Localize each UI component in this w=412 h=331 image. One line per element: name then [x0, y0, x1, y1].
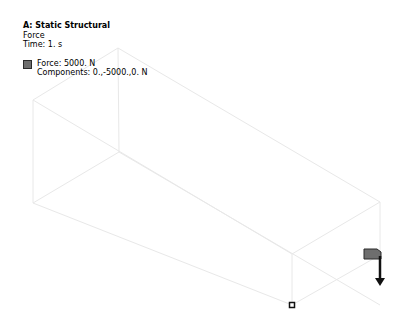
graphics-viewport[interactable]: A: Static Structural Force Time: 1. s Fo…	[0, 0, 412, 331]
analysis-time: Time: 1. s	[23, 40, 148, 50]
force-color-swatch-icon	[23, 60, 32, 69]
force-components-label: Components: 0.,-5000.,0. N	[37, 68, 148, 78]
box-wireframe	[33, 48, 380, 305]
analysis-legend: A: Static Structural Force Time: 1. s Fo…	[23, 21, 148, 78]
force-magnitude-label: Force: 5000. N	[37, 59, 148, 69]
force-arrow-icon[interactable]	[364, 249, 385, 286]
legend-entry-force: Force: 5000. N Components: 0.,-5000.,0. …	[23, 59, 148, 78]
analysis-title: A: Static Structural	[23, 21, 148, 31]
origin-marker-icon	[290, 303, 295, 308]
analysis-object: Force	[23, 31, 148, 41]
